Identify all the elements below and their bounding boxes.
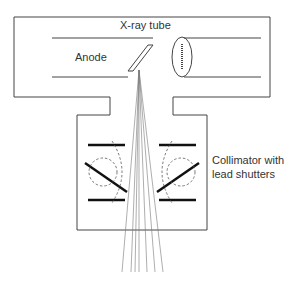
tube-housing-outline [14,17,270,230]
anode-label: Anode [75,51,107,63]
xray-beam [122,70,163,272]
left-lead-shutter [85,141,127,203]
anode-target [128,45,153,71]
right-lead-shutter [157,141,199,203]
xray-tube-label: X-ray tube [120,19,171,31]
xray-collimator-diagram: X-ray tube Anode Collimator with lead sh… [0,0,292,284]
collimator-label-line1: Collimator with [212,154,284,166]
collimator-label-line2: lead shutters [212,168,275,180]
